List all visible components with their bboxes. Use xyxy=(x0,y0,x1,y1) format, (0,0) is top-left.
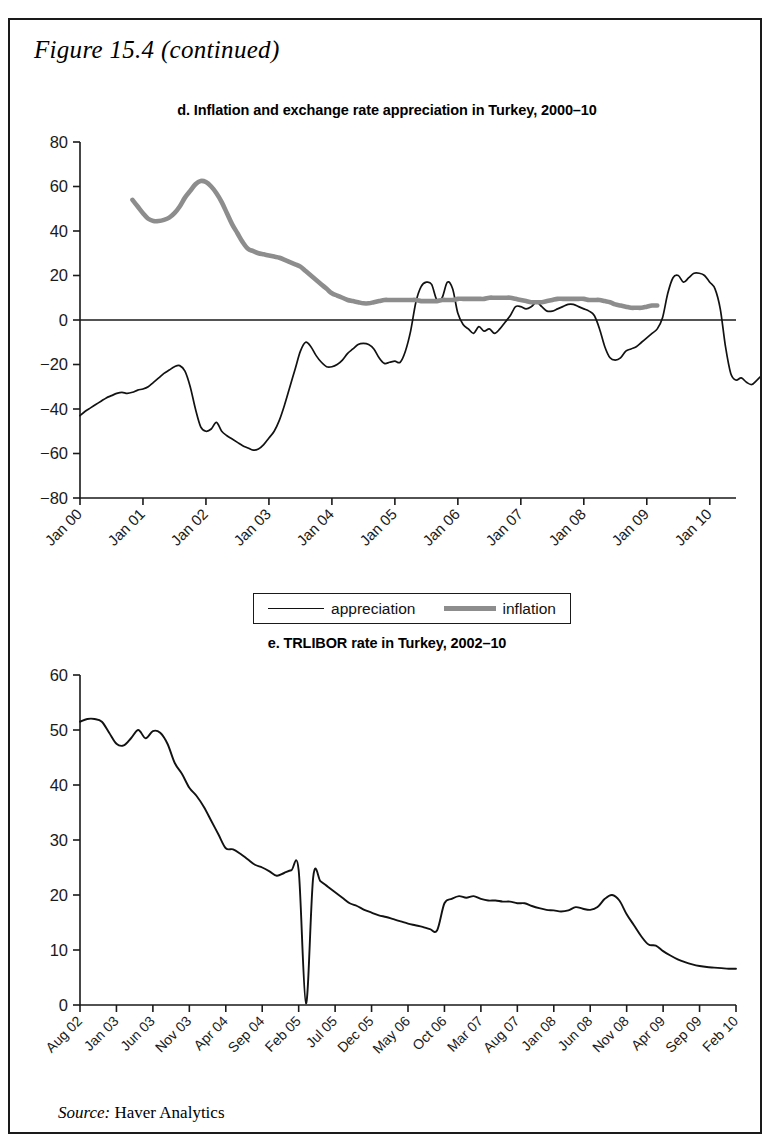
x-tick-label-panel-e: Jun 03 xyxy=(117,1013,158,1054)
x-tick-label-panel-e: Sep 04 xyxy=(225,1013,268,1056)
x-tick-label-panel-d: Jan 10 xyxy=(671,505,715,549)
x-tick-label-panel-e: Feb 10 xyxy=(699,1013,741,1055)
source-text: Haver Analytics xyxy=(115,1103,225,1122)
x-tick-label-panel-e: Jan 08 xyxy=(518,1013,559,1054)
chart-title-panel-e: e. TRLIBOR rate in Turkey, 2002–10 xyxy=(10,635,762,651)
x-tick-label-panel-d: Jan 00 xyxy=(41,505,85,549)
x-tick-label-panel-d: Jan 08 xyxy=(545,505,589,549)
x-tick-label-panel-e: Sep 09 xyxy=(662,1013,705,1056)
y-tick-label-panel-d: 40 xyxy=(50,222,68,240)
y-tick-label-panel-d: −60 xyxy=(40,444,68,462)
source-prefix: Source: xyxy=(58,1103,110,1122)
legend-swatch-appreciation xyxy=(268,608,324,609)
figure-number: Figure 15.4 xyxy=(34,36,154,63)
chart-panel-e: 6050403020100Aug 02Jan 03Jun 03Nov 03Apr… xyxy=(10,653,762,1098)
x-tick-label-panel-e: Dec 05 xyxy=(334,1013,377,1056)
y-tick-label-panel-e: 0 xyxy=(59,996,68,1014)
y-tick-label-panel-e: 40 xyxy=(50,776,68,794)
y-tick-label-panel-e: 10 xyxy=(50,941,68,959)
figure-page: Figure 15.4 (continued) d. Inflation and… xyxy=(8,18,762,1134)
x-tick-label-panel-d: Jan 09 xyxy=(608,505,652,549)
y-tick-label-panel-d: −80 xyxy=(40,489,68,507)
legend-swatch-inflation xyxy=(444,606,496,611)
x-tick-label-panel-e: May 06 xyxy=(369,1013,413,1057)
chart-title-panel-d: d. Inflation and exchange rate appreciat… xyxy=(10,102,762,118)
y-tick-label-panel-d: 0 xyxy=(59,311,68,329)
y-tick-label-panel-d: 20 xyxy=(50,266,68,284)
x-tick-label-panel-d: Jan 05 xyxy=(356,505,400,549)
figure-label: Figure 15.4 (continued) xyxy=(34,36,280,64)
y-tick-label-panel-d: 80 xyxy=(50,133,68,151)
x-tick-label-panel-d: Jan 02 xyxy=(167,505,211,549)
x-tick-label-panel-e: Jun 08 xyxy=(554,1013,595,1054)
legend-label-inflation: inflation xyxy=(503,600,556,618)
series-path-inflation xyxy=(132,181,657,308)
x-tick-label-panel-d: Jan 01 xyxy=(104,505,148,549)
chart-panel-d: 806040200−20−40−60−80Jan 00Jan 01Jan 02J… xyxy=(10,120,762,570)
x-tick-label-panel-e: Apr 09 xyxy=(628,1013,669,1054)
y-tick-label-panel-d: −40 xyxy=(40,400,68,418)
y-tick-label-panel-d: −20 xyxy=(40,355,68,373)
figure-continued: (continued) xyxy=(161,36,280,63)
x-tick-label-panel-e: Mar 07 xyxy=(444,1013,486,1055)
source-note: Source: Haver Analytics xyxy=(58,1103,225,1123)
chart-legend: appreciation inflation xyxy=(253,593,571,624)
y-tick-label-panel-d: 60 xyxy=(50,177,68,195)
x-tick-label-panel-e: Oct 06 xyxy=(409,1013,450,1054)
x-tick-label-panel-d: Jan 07 xyxy=(482,505,526,549)
x-tick-label-panel-d: Jan 03 xyxy=(230,505,274,549)
chart-svg-panel-e: 6050403020100Aug 02Jan 03Jun 03Nov 03Apr… xyxy=(10,653,762,1098)
x-tick-label-panel-e: Jan 03 xyxy=(81,1013,122,1054)
y-tick-label-panel-e: 60 xyxy=(50,666,68,684)
x-tick-label-panel-e: Aug 07 xyxy=(480,1013,523,1056)
x-tick-label-panel-d: Jan 04 xyxy=(293,505,337,549)
series-path-trlibor xyxy=(80,719,736,1004)
x-tick-label-panel-e: Aug 02 xyxy=(42,1013,85,1056)
y-tick-label-panel-e: 50 xyxy=(50,721,68,739)
legend-label-appreciation: appreciation xyxy=(331,600,415,618)
x-tick-label-panel-e: Feb 05 xyxy=(262,1013,304,1055)
axis-lines-panel-e xyxy=(80,675,736,1005)
chart-svg-panel-d: 806040200−20−40−60−80Jan 00Jan 01Jan 02J… xyxy=(10,120,762,570)
y-tick-label-panel-e: 30 xyxy=(50,831,68,849)
legend-item-appreciation: appreciation xyxy=(268,600,415,618)
x-tick-label-panel-e: Apr 04 xyxy=(190,1013,231,1054)
x-tick-label-panel-e: Nov 08 xyxy=(589,1013,632,1056)
legend-item-inflation: inflation xyxy=(444,600,556,618)
x-tick-label-panel-d: Jan 06 xyxy=(419,505,463,549)
y-tick-label-panel-e: 20 xyxy=(50,886,68,904)
x-tick-label-panel-e: Nov 03 xyxy=(152,1013,195,1056)
